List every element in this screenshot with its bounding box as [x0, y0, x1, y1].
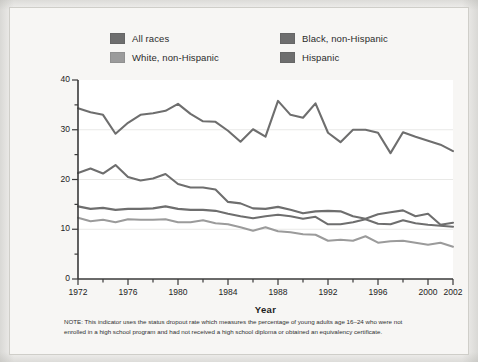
x-tick-label-1980: 1980 — [158, 287, 198, 297]
x-tick-label-1984: 1984 — [208, 287, 248, 297]
x-tick-label-2002: 2002 — [433, 287, 473, 297]
x-tick-label-1988: 1988 — [258, 287, 298, 297]
x-axis-label: Year — [78, 304, 453, 315]
x-tick-label-1972: 1972 — [58, 287, 98, 297]
y-tick-label-30: 30 — [46, 124, 70, 134]
y-tick-label-40: 40 — [46, 74, 70, 84]
y-tick-label-0: 0 — [46, 273, 70, 283]
y-tick-label-20: 20 — [46, 174, 70, 184]
x-tick-label-1976: 1976 — [108, 287, 148, 297]
chart-note: NOTE: This indicator uses the status dro… — [64, 317, 419, 337]
y-tick-label-10: 10 — [46, 223, 70, 233]
page-background: All races White, non-Hispanic Black, non… — [0, 0, 478, 362]
x-tick-label-1992: 1992 — [308, 287, 348, 297]
line-chart: Percent Year 010203040 19721976198019841… — [0, 0, 478, 362]
x-tick-label-1996: 1996 — [358, 287, 398, 297]
